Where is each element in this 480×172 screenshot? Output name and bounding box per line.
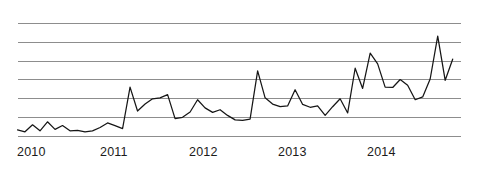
x-axis-tick-labels: 20102011201220132014 xyxy=(0,144,480,166)
gridlines-group xyxy=(18,23,461,136)
x-tick-label-2012: 2012 xyxy=(189,144,218,160)
x-tick-label-2013: 2013 xyxy=(278,144,307,160)
line-chart: 20102011201220132014 xyxy=(0,0,480,172)
x-tick-label-2014: 2014 xyxy=(367,144,396,160)
x-tick-label-2010: 2010 xyxy=(17,144,46,160)
x-tick-label-2011: 2011 xyxy=(100,144,128,160)
